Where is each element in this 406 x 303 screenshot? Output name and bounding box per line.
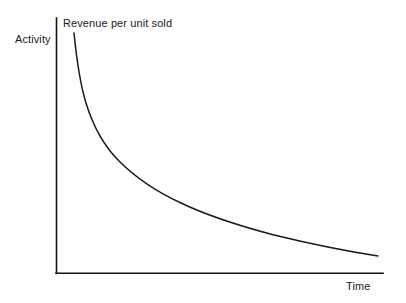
chart-figure: Revenue per unit sold Activity Time xyxy=(0,0,406,303)
chart-plot-area xyxy=(0,0,406,303)
x-axis-label: Time xyxy=(346,280,370,292)
series-title-label: Revenue per unit sold xyxy=(63,17,172,29)
y-axis-label: Activity xyxy=(15,33,51,45)
plot-background xyxy=(0,0,406,303)
